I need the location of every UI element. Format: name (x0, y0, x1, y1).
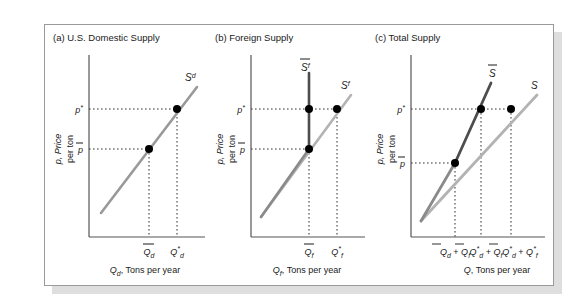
svg-text:p, Price: p, Price (53, 134, 63, 166)
panel-c-x-axis-title: Q, Tons per year (464, 265, 530, 275)
panel-a-curve-label-sd: Sd (185, 72, 197, 83)
panel-a-xtick-qdbar: Qd (143, 244, 156, 259)
supply-curves-figure: (a) U.S. Domestic Supply p, Price per to… (45, 25, 553, 285)
panel-b-ytick-pstar: p* (236, 104, 245, 115)
panel-b-x-axis-title: Qf, Tons per year (273, 265, 341, 277)
panel-a-y-axis-title-l1: p, Price (53, 134, 63, 166)
svg-text:p: p (77, 145, 83, 155)
svg-text:p: p (239, 145, 245, 155)
panel-b-title: (b) Foreign Supply (215, 32, 293, 43)
figure-card: (a) U.S. Domestic Supply p, Price per to… (44, 24, 554, 286)
panel-b-xtick-qfbar: Qf (304, 244, 315, 259)
panel-c-curve-s (421, 95, 537, 221)
panel-a-y-axis-title: p, Price (53, 134, 63, 166)
panel-b-y-axis-title-l2: per ton (227, 135, 237, 163)
panel-c-y-axis-title-l1: p, Price (375, 134, 385, 166)
panel-a-ytick-pstar: p* (74, 104, 83, 115)
panel-c-ytick-pstar: p* (396, 104, 405, 115)
panel-c-y-axis-title-l2: per ton (387, 135, 397, 163)
panel-c-xtick-3: Q*d + Q*f (502, 245, 539, 259)
panel-c-xtick-1: Qd + Qf (432, 244, 471, 259)
panel-c-ytick-pbar: p (398, 157, 405, 169)
panel-a-xtick-qdstar: Q*d (170, 245, 185, 259)
panel-c-xtick-2: Q*d + Qf (470, 244, 504, 259)
svg-text:Qd + Qf: Qd + Qf (440, 247, 471, 259)
panel-b-point-qfstar (333, 105, 341, 113)
panel-a-point-qdstar (173, 105, 181, 113)
svg-text:Q*d + Qf: Q*d + Qf (470, 245, 504, 259)
panel-a-title: (a) U.S. Domestic Supply (53, 32, 160, 43)
panel-b-curve-sfbar-lower (261, 149, 309, 217)
panel-a: (a) U.S. Domestic Supply p, Price per to… (53, 32, 205, 277)
panel-c-y-axis-title-2: per ton (387, 135, 397, 163)
panel-a-point-qdbar (145, 145, 153, 153)
svg-text:per ton: per ton (65, 135, 75, 163)
svg-text:p, Price: p, Price (375, 134, 385, 166)
svg-text:Sf: Sf (301, 62, 311, 73)
panel-b-xtick-qfstar: Q*f (331, 245, 344, 259)
svg-text:S: S (489, 68, 496, 79)
panel-a-y-axis-title-l2: per ton (65, 135, 75, 163)
panel-c-point-kink (451, 159, 459, 167)
svg-text:Qf: Qf (305, 247, 315, 259)
panel-a-y-axis-title-2: per ton (65, 135, 75, 163)
panel-c-curve-label-s: S (531, 80, 538, 91)
svg-text:per ton: per ton (227, 135, 237, 163)
panel-b-point-qfbar (305, 145, 313, 153)
panel-c-title: (c) Total Supply (375, 32, 441, 43)
panel-c-y-axis-title: p, Price (375, 134, 385, 166)
panel-c-point-q3 (507, 105, 515, 113)
panel-b-curve-label-sfbar: Sf (300, 59, 311, 73)
panel-c-point-q2 (477, 105, 485, 113)
svg-text:Q*d + Q*f: Q*d + Q*f (502, 245, 539, 259)
panel-a-x-axis-title: Qd, Tons per year (110, 265, 180, 277)
panel-b-ytick-pbar: p (238, 143, 245, 155)
panel-c-curve-label-sbar: S (488, 65, 497, 79)
panel-b-point-quota-pstar (305, 105, 313, 113)
panel-c: (c) Total Supply p, Price per ton (375, 32, 545, 275)
svg-text:per ton: per ton (387, 135, 397, 163)
figure-root: (a) U.S. Domestic Supply p, Price per to… (0, 0, 571, 306)
panel-c-curve-sbar-lower (421, 163, 455, 221)
svg-text:Qd: Qd (144, 247, 156, 259)
svg-text:p: p (399, 159, 405, 169)
panel-b-y-axis-title: p, Price (215, 134, 225, 166)
panel-b-y-axis-title-2: per ton (227, 135, 237, 163)
panel-b-curve-label-sf: Sf (341, 80, 351, 91)
panel-b: (b) Foreign Supply p, Price per ton (215, 32, 365, 277)
panel-a-ytick-pbar: p (76, 143, 83, 155)
svg-text:p, Price: p, Price (215, 134, 225, 166)
panel-b-y-axis-title-l1: p, Price (215, 134, 225, 166)
